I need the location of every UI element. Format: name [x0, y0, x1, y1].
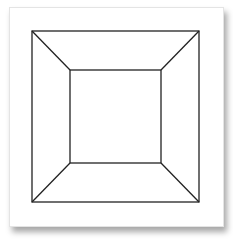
- diagonal-bottom-right: [161, 163, 199, 202]
- diagonal-top-right: [161, 31, 199, 70]
- diagonal-top-left: [32, 31, 70, 70]
- inner-square: [70, 70, 161, 163]
- diagonal-bottom-left: [32, 163, 70, 202]
- square-frame-diagram: [0, 0, 233, 245]
